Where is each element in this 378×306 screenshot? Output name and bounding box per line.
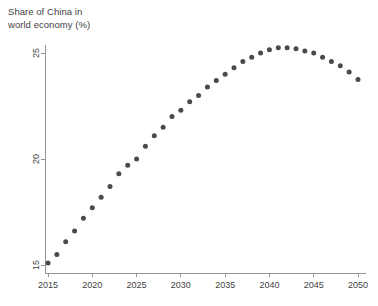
data-point	[116, 171, 121, 176]
data-point	[161, 125, 166, 130]
x-tick-label-2020: 2020	[82, 280, 102, 290]
data-point	[143, 144, 148, 149]
data-point	[152, 133, 157, 138]
data-point	[214, 78, 219, 83]
x-tick-label-2015: 2015	[38, 280, 58, 290]
data-point	[108, 184, 113, 189]
data-point	[187, 99, 192, 104]
data-point	[347, 70, 352, 75]
data-point	[81, 216, 86, 221]
data-point	[170, 114, 175, 119]
x-tick-label-2030: 2030	[171, 280, 191, 290]
y-tick-label-25: 25	[31, 48, 41, 58]
data-point	[54, 252, 59, 257]
data-point	[311, 51, 316, 56]
data-point	[240, 59, 245, 64]
data-point	[134, 157, 139, 162]
x-tick-label-2025: 2025	[127, 280, 147, 290]
axes-layer: 15202520152020202520302035204020452050	[31, 45, 368, 290]
data-point	[258, 51, 263, 56]
x-tick-label-2040: 2040	[259, 280, 279, 290]
data-point	[276, 45, 281, 50]
x-tick-label-2050: 2050	[348, 280, 368, 290]
data-point	[205, 84, 210, 89]
data-point	[302, 48, 307, 53]
chart-container: Share of China in world economy (%) 1520…	[0, 0, 378, 306]
chart-plot-area: 15202520152020202520302035204020452050	[0, 0, 378, 306]
data-point	[72, 229, 77, 234]
x-tick-label-2035: 2035	[215, 280, 235, 290]
data-point	[267, 47, 272, 52]
data-point	[90, 205, 95, 210]
data-point	[285, 45, 290, 50]
data-point	[338, 63, 343, 68]
x-tick-label-2045: 2045	[304, 280, 324, 290]
y-tick-label-20: 20	[31, 154, 41, 164]
data-point	[356, 77, 361, 82]
y-tick-label-15: 15	[31, 260, 41, 270]
data-point	[294, 46, 299, 51]
data-point	[329, 59, 334, 64]
data-point	[99, 195, 104, 200]
data-point	[178, 108, 183, 113]
data-point	[249, 55, 254, 60]
data-point	[46, 260, 51, 265]
data-point	[63, 239, 68, 244]
data-point	[320, 55, 325, 60]
data-point	[223, 72, 228, 77]
data-points-layer	[46, 45, 361, 265]
data-point	[196, 93, 201, 98]
data-point	[125, 163, 130, 168]
data-point	[232, 65, 237, 70]
